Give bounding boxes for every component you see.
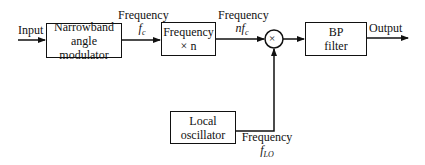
signal-title: Frequency	[118, 9, 166, 22]
bp-filter-block: BP filter	[305, 22, 367, 56]
flo-label: Frequency fLO	[238, 131, 296, 161]
mixer-symbol: ×	[269, 32, 275, 45]
local-oscillator-block: Local oscillator	[170, 111, 236, 144]
block-line-2: × n	[181, 39, 197, 53]
input-label: Input	[18, 24, 43, 37]
flo-arrow	[236, 49, 274, 131]
block-line-1: Narrowband	[54, 20, 114, 34]
output-label: Output	[369, 22, 402, 35]
fc-label: Frequency fc	[118, 9, 166, 39]
block-line-1: Frequency	[163, 25, 214, 39]
block-line-2: angle modulator	[47, 34, 121, 62]
signal-title: Frequency	[238, 131, 296, 144]
block-line-2: filter	[324, 39, 347, 53]
signal-symbol: fc	[118, 22, 166, 39]
block-line-1: Local	[189, 114, 216, 128]
block-line-2: oscillator	[181, 128, 226, 142]
narrowband-angle-modulator-block: Narrowband angle modulator	[46, 23, 122, 58]
block-line-1: BP	[329, 25, 344, 39]
nfc-label: Frequency nfc	[218, 9, 266, 39]
signal-symbol: fLO	[238, 144, 296, 161]
signal-symbol: nfc	[218, 22, 266, 39]
frequency-multiplier-block: Frequency × n	[161, 22, 216, 56]
